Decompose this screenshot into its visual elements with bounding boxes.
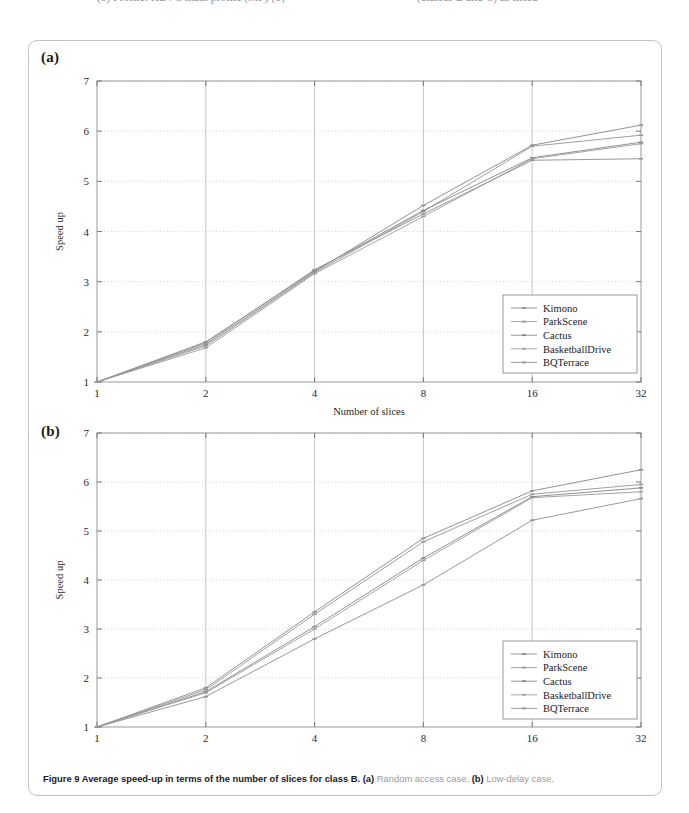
speedup-chart-random-access: 123456712481632Number of slicesSpeed upK… xyxy=(29,41,663,416)
legend-label-cactus: Cactus xyxy=(543,330,572,341)
y-axis-tick-label: 1 xyxy=(84,721,90,733)
x-axis-tick-label: 1 xyxy=(94,732,100,744)
caption-title: Figure 9 Average speed-up in terms of th… xyxy=(43,773,360,784)
x-axis-tick-label: 32 xyxy=(636,387,647,399)
x-axis-tick-label: 2 xyxy=(203,387,209,399)
caption-a-tag: (a) xyxy=(363,773,374,784)
clipped-text-left: (b) Profile: HEVC main profile (MP) [1] xyxy=(97,0,285,3)
y-axis-tick-label: 6 xyxy=(84,125,90,137)
x-axis-tick-label: 4 xyxy=(312,387,318,399)
clipped-text-right: (classes B and C) as listed xyxy=(417,0,537,3)
legend-label-basketballdrive: BasketballDrive xyxy=(543,344,612,355)
figure-caption: Figure 9 Average speed-up in terms of th… xyxy=(29,772,663,785)
x-axis-tick-label: 8 xyxy=(421,732,427,744)
y-axis-tick-label: 5 xyxy=(84,175,90,187)
legend-label-basketballdrive: BasketballDrive xyxy=(543,690,612,701)
legend-label-parkscene: ParkScene xyxy=(543,316,588,327)
y-axis-tick-label: 1 xyxy=(84,376,90,388)
x-axis-tick-label: 16 xyxy=(527,387,539,399)
legend-label-cactus: Cactus xyxy=(543,676,572,687)
y-axis-tick-label: 4 xyxy=(84,226,90,238)
speedup-chart-low-delay: 123456712481632Number of slicesSpeed upK… xyxy=(29,419,663,749)
y-axis-tick-label: 2 xyxy=(84,326,90,338)
y-axis-tick-label: 7 xyxy=(84,75,90,87)
y-axis-tick-label: 7 xyxy=(84,427,90,439)
y-axis-tick-label: 2 xyxy=(84,672,90,684)
legend-label-kimono: Kimono xyxy=(543,303,577,314)
figure-frame: (a) 123456712481632Number of slicesSpeed… xyxy=(28,40,662,796)
x-axis-tick-label: 32 xyxy=(636,732,647,744)
y-axis-title: Speed up xyxy=(54,212,65,251)
x-axis-title: Number of slices xyxy=(333,406,405,416)
legend-label-bqterrace: BQTerrace xyxy=(543,357,589,368)
y-axis-tick-label: 3 xyxy=(84,276,90,288)
caption-a-text: Random access case. xyxy=(377,773,469,784)
y-axis-tick-label: 4 xyxy=(84,574,90,586)
legend-label-bqterrace: BQTerrace xyxy=(543,703,589,714)
legend-label-kimono: Kimono xyxy=(543,649,577,660)
y-axis-tick-label: 5 xyxy=(84,525,90,537)
caption-b-tag: (b) xyxy=(472,773,484,784)
x-axis-tick-label: 1 xyxy=(94,387,100,399)
y-axis-tick-label: 3 xyxy=(84,623,90,635)
chart-panel-b: (b) 123456712481632Number of slicesSpeed… xyxy=(29,419,663,749)
legend-label-parkscene: ParkScene xyxy=(543,662,588,673)
y-axis-title: Speed up xyxy=(54,561,65,600)
x-axis-tick-label: 2 xyxy=(203,732,209,744)
clipped-page-text-strip: (b) Profile: HEVC main profile (MP) [1] … xyxy=(0,0,689,14)
x-axis-tick-label: 4 xyxy=(312,732,318,744)
y-axis-tick-label: 6 xyxy=(84,476,90,488)
x-axis-tick-label: 16 xyxy=(527,732,539,744)
chart-panel-a: (a) 123456712481632Number of slicesSpeed… xyxy=(29,41,663,416)
x-axis-tick-label: 8 xyxy=(421,387,427,399)
caption-b-text: Low-delay case. xyxy=(486,773,554,784)
